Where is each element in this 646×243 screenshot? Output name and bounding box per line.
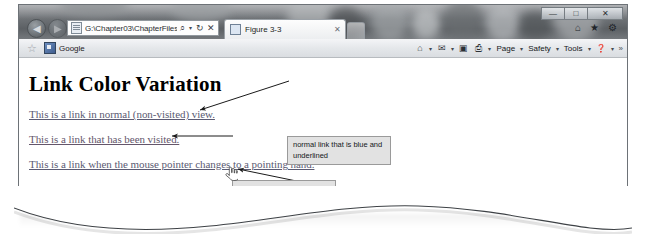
address-bar-icons: ⌕ ▾ ↻ ✕ — [177, 24, 218, 33]
bookmark-google[interactable]: Google — [44, 42, 85, 54]
forward-button[interactable]: ▶ — [48, 19, 67, 38]
wallpaper-blob — [443, 5, 483, 39]
tab-label: Figure 3-3 — [245, 25, 334, 34]
torn-paper-edge — [14, 186, 632, 234]
close-button[interactable]: ✕ — [587, 7, 623, 20]
window-caption-buttons: — □ ✕ — [542, 7, 623, 20]
title-bar: ◀ ▶ G:\Chapter03\ChapterFiles\Fi ⌕ ▾ ↻ ✕ — [19, 5, 627, 39]
chevron-down-icon[interactable]: ▾ — [519, 46, 524, 52]
bookmark-label: Google — [59, 44, 85, 53]
title-bar-icons: ⌂ ★ ⚙ — [575, 23, 617, 33]
search-icon[interactable]: ⌕ — [180, 24, 185, 33]
refresh-icon[interactable]: ↻ — [196, 24, 204, 33]
tab-close-icon[interactable]: ✕ — [334, 25, 341, 34]
pointing-hand-cursor — [225, 166, 238, 181]
wallpaper-blob — [411, 9, 441, 39]
new-tab-button[interactable] — [347, 22, 365, 39]
tools-gear-icon[interactable]: ⚙ — [608, 23, 617, 33]
tab-favicon-icon — [230, 24, 241, 35]
read-mail-icon[interactable]: ✉ — [435, 42, 448, 55]
home-icon[interactable]: ⌂ — [575, 23, 581, 33]
forward-arrow-icon: ▶ — [54, 24, 62, 34]
favorites-bar: ☆ Google ⌂ ▾ ✉ ▾ ▣ ⎙ ▾ Page ▾ Safety ▾ T… — [19, 39, 627, 58]
browser-window: ◀ ▶ G:\Chapter03\ChapterFiles\Fi ⌕ ▾ ↻ ✕ — [18, 4, 628, 200]
chevron-down-icon[interactable]: ▾ — [487, 46, 492, 52]
chevron-down-icon[interactable]: ▾ — [450, 46, 455, 52]
help-icon[interactable]: ❓ — [594, 45, 608, 53]
wallpaper-blob — [371, 5, 409, 39]
page-viewport: Link Color Variation This is a link in n… — [19, 58, 627, 199]
link-normal[interactable]: This is a link in normal (non-visited) v… — [29, 108, 215, 120]
callout-normal-link: normal link that is blue and underlined — [287, 136, 391, 165]
address-bar[interactable]: G:\Chapter03\ChapterFiles\Fi ⌕ ▾ ↻ ✕ — [67, 20, 219, 36]
wallpaper-blob — [485, 5, 521, 39]
command-bar: ⌂ ▾ ✉ ▾ ▣ ⎙ ▾ Page ▾ Safety ▾ Tools ▾ ❓ … — [413, 39, 623, 58]
leader-line-normal-link — [195, 78, 291, 114]
menu-page[interactable]: Page — [494, 45, 517, 53]
add-to-favorites-icon[interactable]: ☆ — [27, 43, 37, 54]
back-button[interactable]: ◀ — [27, 19, 46, 38]
navigation-buttons: ◀ ▶ — [27, 19, 67, 38]
back-arrow-icon: ◀ — [33, 24, 41, 34]
screenshot-root: ◀ ▶ G:\Chapter03\ChapterFiles\Fi ⌕ ▾ ↻ ✕ — [0, 0, 646, 243]
stop-icon[interactable]: ✕ — [207, 24, 215, 33]
overflow-chevrons-icon[interactable]: » — [617, 44, 623, 53]
maximize-button[interactable]: □ — [564, 7, 588, 20]
google-bookmark-icon — [44, 42, 56, 54]
feeds-icon[interactable]: ⌂ — [413, 42, 426, 55]
chevron-down-icon[interactable]: ▾ — [587, 46, 592, 52]
chevron-down-icon[interactable]: ▾ — [610, 46, 615, 52]
chevron-down-icon[interactable]: ▾ — [555, 46, 560, 52]
address-input[interactable]: G:\Chapter03\ChapterFiles\Fi — [85, 24, 177, 33]
page-favicon-icon — [71, 22, 82, 34]
chevron-down-icon[interactable]: ▾ — [428, 46, 433, 52]
minimize-button[interactable]: — — [541, 7, 565, 20]
leader-line-visited-link — [167, 130, 235, 144]
favorites-star-icon[interactable]: ★ — [590, 23, 599, 33]
print-icon[interactable]: ⎙ — [472, 42, 485, 55]
menu-tools[interactable]: Tools — [562, 45, 585, 53]
tab-figure-3-3[interactable]: Figure 3-3 ✕ — [224, 19, 346, 39]
chevron-down-icon[interactable]: ▾ — [188, 25, 193, 31]
rss-icon[interactable]: ▣ — [457, 42, 470, 55]
menu-safety[interactable]: Safety — [526, 45, 553, 53]
page-title: Link Color Variation — [29, 72, 222, 97]
link-visited[interactable]: This is a link that has been visited. — [29, 133, 179, 145]
